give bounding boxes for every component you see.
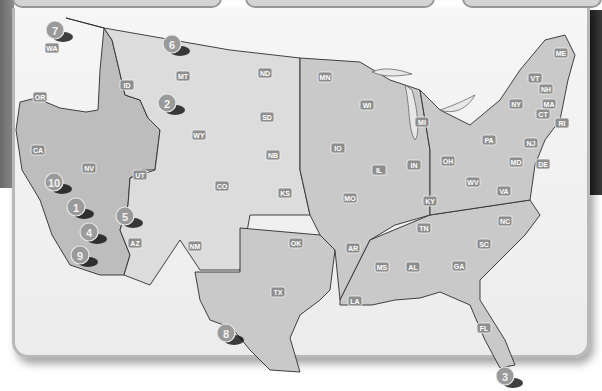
state-label-az: AZ xyxy=(128,238,142,248)
state-label-ca: CA xyxy=(31,145,45,155)
state-label-text: PA xyxy=(484,137,493,144)
state-label-text: SC xyxy=(479,241,489,248)
marker-number: 5 xyxy=(122,211,128,223)
state-label-text: OR xyxy=(35,94,46,101)
state-label-text: SD xyxy=(262,114,272,121)
state-label-ut: UT xyxy=(133,170,147,180)
state-label-ma: MA xyxy=(542,99,556,109)
us-map: WAORCANVIDMTWYUTAZCONMNDSDNBKSOKTXMNIOMO… xyxy=(0,0,602,391)
state-label-oh: OH xyxy=(441,156,455,166)
state-label-wa: WA xyxy=(45,43,59,53)
state-label-mi: MI xyxy=(415,117,429,127)
state-label-ar: AR xyxy=(346,243,360,253)
state-label-text: DE xyxy=(538,161,548,168)
state-label-il: IL xyxy=(372,165,386,175)
state-label-sc: SC xyxy=(477,239,491,249)
location-marker-7[interactable]: 7 xyxy=(46,21,73,42)
state-label-text: WI xyxy=(363,102,372,109)
state-label-va: VA xyxy=(497,186,511,196)
state-label-text: VA xyxy=(499,188,508,195)
state-label-text: CT xyxy=(538,111,548,118)
state-label-text: AZ xyxy=(130,240,140,247)
state-label-nj: NJ xyxy=(524,138,538,148)
state-label-ny: NY xyxy=(509,99,523,109)
state-label-text: NH xyxy=(541,86,551,93)
state-label-ok: OK xyxy=(289,238,303,248)
state-label-text: NY xyxy=(511,101,521,108)
state-label-ks: KS xyxy=(278,188,292,198)
state-label-text: NM xyxy=(190,243,201,250)
state-label-nh: NH xyxy=(539,84,553,94)
state-label-text: KS xyxy=(280,190,290,197)
marker-number: 7 xyxy=(52,25,58,37)
state-label-text: ME xyxy=(556,50,567,57)
marker-number: 6 xyxy=(169,39,175,51)
state-label-text: MN xyxy=(320,74,331,81)
state-label-id: ID xyxy=(120,80,134,90)
state-label-text: TX xyxy=(274,289,283,296)
state-label-or: OR xyxy=(33,92,47,102)
state-label-md: MD xyxy=(509,157,523,167)
state-label-pa: PA xyxy=(482,135,496,145)
state-label-wy: WY xyxy=(192,130,206,140)
state-label-ky: KY xyxy=(423,196,437,206)
state-label-sd: SD xyxy=(260,112,274,122)
state-label-nm: NM xyxy=(188,241,202,251)
state-label-text: WA xyxy=(46,45,57,52)
state-label-nb: NB xyxy=(266,150,280,160)
state-label-de: DE xyxy=(536,159,550,169)
state-label-text: TN xyxy=(419,225,428,232)
state-label-text: LA xyxy=(350,298,359,305)
location-marker-3[interactable]: 3 xyxy=(496,367,523,388)
state-label-text: IN xyxy=(411,162,418,169)
state-label-text: MO xyxy=(344,195,356,202)
state-label-me: ME xyxy=(554,48,568,58)
state-label-ri: RI xyxy=(555,118,569,128)
lake-erie xyxy=(440,95,475,112)
state-label-text: MA xyxy=(544,101,555,108)
state-label-text: VT xyxy=(531,75,541,82)
state-label-text: IO xyxy=(334,145,342,152)
state-label-text: MI xyxy=(418,119,426,126)
marker-number: 10 xyxy=(48,177,60,189)
state-label-al: AL xyxy=(406,262,420,272)
state-label-mn: MN xyxy=(318,72,332,82)
state-label-text: KY xyxy=(425,198,435,205)
state-label-nv: NV xyxy=(82,163,96,173)
state-label-mo: MO xyxy=(343,193,357,203)
state-label-tn: TN xyxy=(417,223,431,233)
state-label-ga: GA xyxy=(452,261,466,271)
state-label-la: LA xyxy=(348,296,362,306)
state-shapes xyxy=(16,18,575,372)
state-label-text: NJ xyxy=(527,140,536,147)
state-label-text: MT xyxy=(178,73,189,80)
state-label-text: CO xyxy=(217,183,228,190)
marker-number: 3 xyxy=(502,371,508,383)
state-label-text: OK xyxy=(291,240,302,247)
state-label-text: IL xyxy=(376,167,383,174)
state-label-in: IN xyxy=(407,160,421,170)
state-label-wv: WV xyxy=(466,177,480,187)
marker-number: 2 xyxy=(164,98,170,110)
state-label-text: WY xyxy=(193,132,205,139)
state-label-text: CA xyxy=(33,147,43,154)
marker-number: 9 xyxy=(77,250,83,262)
state-label-vt: VT xyxy=(528,73,542,83)
state-label-text: NC xyxy=(500,218,510,225)
state-label-wi: WI xyxy=(360,100,374,110)
state-label-text: ID xyxy=(124,82,131,89)
state-label-text: MS xyxy=(377,264,388,271)
state-label-text: NV xyxy=(84,165,94,172)
state-label-fl: FL xyxy=(477,323,491,333)
state-label-co: CO xyxy=(215,181,229,191)
marker-number: 4 xyxy=(86,227,93,239)
state-label-text: MD xyxy=(511,159,522,166)
state-label-text: RI xyxy=(559,120,566,127)
state-label-io: IO xyxy=(331,143,345,153)
state-label-text: AL xyxy=(408,264,418,271)
state-label-text: NB xyxy=(268,152,278,159)
state-label-text: OH xyxy=(443,158,454,165)
marker-number: 8 xyxy=(223,328,229,340)
state-label-mt: MT xyxy=(176,71,190,81)
state-label-text: WV xyxy=(467,179,479,186)
